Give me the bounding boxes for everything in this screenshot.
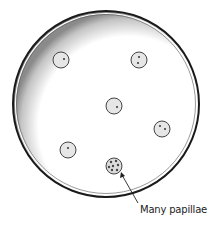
colony-3 [106, 98, 122, 114]
colony-4 [154, 121, 170, 137]
colony-1 [53, 52, 69, 68]
colony-5 [60, 142, 76, 158]
colony-many-papillae [106, 158, 122, 174]
annotation-label: Many papillae [140, 204, 207, 215]
petri-dish-diagram [0, 0, 212, 226]
colony-2 [131, 52, 147, 68]
